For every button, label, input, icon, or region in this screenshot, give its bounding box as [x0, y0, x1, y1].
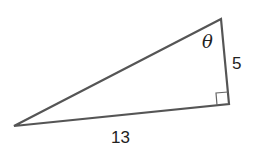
angle-label: θ	[202, 31, 213, 52]
right-angle-marker	[216, 92, 228, 105]
triangle	[14, 19, 229, 126]
triangle-diagram: θ 5 13	[0, 0, 261, 151]
side-label-5: 5	[232, 54, 241, 73]
side-label-13: 13	[111, 128, 130, 147]
